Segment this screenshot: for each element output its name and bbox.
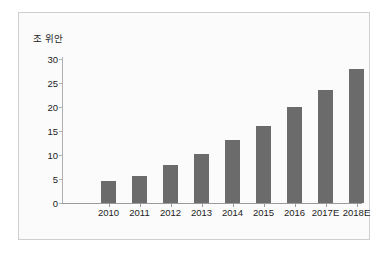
- x-axis-tick-mark: [140, 204, 141, 207]
- y-axis-tick-label: 30: [32, 54, 58, 65]
- y-axis-tick-labels: 051015202530: [30, 0, 58, 253]
- y-axis-tick-label: 10: [32, 150, 58, 161]
- y-axis-tick-mark: [59, 83, 62, 84]
- y-axis-tick-label: 0: [32, 198, 58, 209]
- x-axis-tick-label: 2018E: [337, 207, 377, 218]
- x-axis-tick-mark: [264, 204, 265, 207]
- y-axis-tick-mark: [59, 179, 62, 180]
- x-axis-tick-mark: [109, 204, 110, 207]
- bar: [194, 154, 209, 203]
- bar-group: [248, 55, 279, 203]
- bar-group: [217, 55, 248, 203]
- bar-group: [186, 55, 217, 203]
- bar: [225, 140, 240, 203]
- x-axis-tick-mark: [233, 204, 234, 207]
- bar: [256, 126, 271, 203]
- y-axis-tick-label: 25: [32, 78, 58, 89]
- bar: [163, 165, 178, 203]
- bar-group: [93, 55, 124, 203]
- x-axis-tick-mark: [326, 204, 327, 207]
- x-axis-tick-mark: [295, 204, 296, 207]
- bar: [318, 90, 333, 203]
- y-axis-tick-mark: [59, 59, 62, 60]
- y-axis-tick-label: 20: [32, 102, 58, 113]
- y-axis-tick-label: 15: [32, 126, 58, 137]
- bar-group: [279, 55, 310, 203]
- y-axis-tick-mark: [59, 155, 62, 156]
- bar: [349, 69, 364, 203]
- x-axis-tick-mark: [202, 204, 203, 207]
- x-axis-line: [62, 203, 362, 204]
- bar: [132, 176, 147, 203]
- x-axis-tick-mark: [357, 204, 358, 207]
- bar: [101, 181, 116, 203]
- bar-group: [155, 55, 186, 203]
- bar-group: [124, 55, 155, 203]
- bar: [287, 107, 302, 203]
- x-axis-tick-mark: [171, 204, 172, 207]
- y-axis-tick-label: 5: [32, 174, 58, 185]
- plot-area: [62, 55, 362, 203]
- y-axis-tick-mark: [59, 131, 62, 132]
- y-axis-tick-mark: [59, 107, 62, 108]
- chart-figure: 조 위안 051015202530 2010201120122013201420…: [0, 0, 387, 253]
- bar-group: [310, 55, 341, 203]
- bar-group: [341, 55, 372, 203]
- y-axis-tick-mark: [59, 203, 62, 204]
